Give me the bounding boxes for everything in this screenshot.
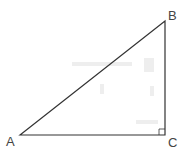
vertex-label-c: C — [168, 135, 177, 150]
triangle-abc — [20, 21, 165, 135]
vertex-label-b: B — [168, 8, 177, 23]
background-bleed-marks — [72, 58, 158, 124]
triangle-diagram: A B C — [0, 0, 189, 151]
vertex-label-a: A — [6, 134, 15, 149]
right-angle-marker-c — [159, 129, 165, 135]
